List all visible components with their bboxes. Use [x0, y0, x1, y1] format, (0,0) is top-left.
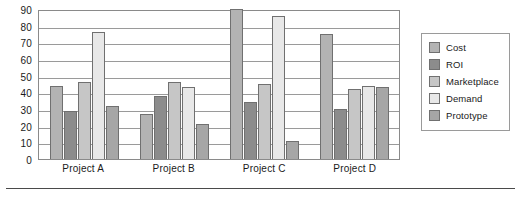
- x-axis-label-project-b: Project B: [129, 163, 220, 179]
- y-axis-tick-50: 50: [20, 71, 32, 82]
- bar-group-project-a: [39, 11, 129, 159]
- y-axis-tick-80: 80: [20, 21, 32, 32]
- legend-swatch-marketplace: [429, 76, 440, 87]
- legend-label-roi: ROI: [446, 59, 463, 70]
- bar-groups: [39, 11, 399, 159]
- bar-cost-project-d[interactable]: [320, 34, 333, 159]
- x-axis-label-project-c: Project C: [219, 163, 310, 179]
- legend-item-roi[interactable]: ROI: [429, 57, 502, 72]
- bar-roi-project-d[interactable]: [334, 109, 347, 159]
- legend-swatch-prototype: [429, 110, 440, 121]
- bar-demand-project-d[interactable]: [362, 86, 375, 159]
- bar-cost-project-a[interactable]: [50, 86, 63, 159]
- y-axis-tick-0: 0: [26, 155, 32, 166]
- bar-group-project-d: [309, 11, 399, 159]
- y-axis-tick-90: 90: [20, 5, 32, 16]
- bar-marketplace-project-b[interactable]: [168, 82, 181, 159]
- bar-prototype-project-c[interactable]: [286, 141, 299, 159]
- plot-area: [38, 10, 400, 160]
- bar-prototype-project-a[interactable]: [106, 106, 119, 159]
- y-axis-tick-40: 40: [20, 88, 32, 99]
- bar-roi-project-b[interactable]: [154, 96, 167, 159]
- bar-demand-project-c[interactable]: [272, 16, 285, 159]
- bar-roi-project-a[interactable]: [64, 111, 77, 159]
- y-axis-tick-20: 20: [20, 121, 32, 132]
- bar-chart-figure: 0102030405060708090 Project AProject BPr…: [0, 0, 521, 182]
- legend-swatch-cost: [429, 42, 440, 53]
- bar-cost-project-b[interactable]: [140, 114, 153, 159]
- legend-item-demand[interactable]: Demand: [429, 91, 502, 106]
- legend-label-demand: Demand: [446, 93, 483, 104]
- bar-group-project-b: [129, 11, 219, 159]
- x-axis-category-labels: Project AProject BProject CProject D: [38, 163, 400, 179]
- legend-swatch-roi: [429, 59, 440, 70]
- bar-prototype-project-d[interactable]: [376, 87, 389, 159]
- bar-prototype-project-b[interactable]: [196, 124, 209, 159]
- y-axis-tick-60: 60: [20, 55, 32, 66]
- x-axis-label-project-d: Project D: [310, 163, 401, 179]
- y-axis-tick-30: 30: [20, 105, 32, 116]
- y-axis-tick-70: 70: [20, 38, 32, 49]
- bottom-divider: [6, 188, 515, 189]
- legend-label-prototype: Prototype: [446, 110, 488, 121]
- bar-roi-project-c[interactable]: [244, 102, 257, 159]
- bar-marketplace-project-c[interactable]: [258, 84, 271, 159]
- bar-marketplace-project-d[interactable]: [348, 89, 361, 159]
- chart-screenshot: 0102030405060708090 Project AProject BPr…: [0, 0, 521, 197]
- x-axis-label-project-a: Project A: [38, 163, 129, 179]
- legend-item-prototype[interactable]: Prototype: [429, 108, 502, 123]
- legend-swatch-demand: [429, 93, 440, 104]
- legend-label-cost: Cost: [446, 42, 466, 53]
- bar-group-project-c: [219, 11, 309, 159]
- bar-demand-project-a[interactable]: [92, 32, 105, 159]
- legend-item-cost[interactable]: Cost: [429, 40, 502, 55]
- y-axis-tick-labels: 0102030405060708090: [0, 0, 36, 160]
- chart-legend: CostROIMarketplaceDemandPrototype: [421, 33, 510, 131]
- y-axis-tick-10: 10: [20, 138, 32, 149]
- legend-item-marketplace[interactable]: Marketplace: [429, 74, 502, 89]
- legend-label-marketplace: Marketplace: [446, 76, 499, 87]
- bar-marketplace-project-a[interactable]: [78, 82, 91, 159]
- bar-demand-project-b[interactable]: [182, 87, 195, 159]
- bar-cost-project-c[interactable]: [230, 9, 243, 159]
